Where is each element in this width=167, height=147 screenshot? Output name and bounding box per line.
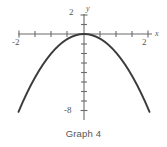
y-axis-top-label: 2 <box>69 7 74 17</box>
graph-figure: 2 -8 -2 2 y x Graph 4 <box>0 0 167 147</box>
x-axis-right-label: 2 <box>142 37 147 47</box>
parabola-plot <box>0 0 167 128</box>
x-axis-left-label: -2 <box>12 37 20 47</box>
figure-caption: Graph 4 <box>0 128 167 139</box>
x-axis-variable-label: x <box>155 29 159 38</box>
y-axis-variable-label: y <box>86 4 90 13</box>
y-axis-bottom-label: -8 <box>64 105 72 115</box>
